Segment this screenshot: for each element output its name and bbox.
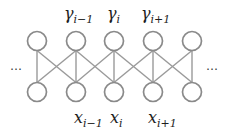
- label-x-i-minus-1: xi−1: [74, 110, 103, 126]
- label-subscript: i−1: [74, 13, 94, 26]
- label-symbol: x: [148, 108, 157, 127]
- bottom-nodes: [28, 83, 202, 102]
- label-symbol: x: [74, 108, 83, 127]
- label-gamma-i-plus-1: γi+1: [141, 6, 170, 22]
- label-symbol: x: [110, 108, 119, 127]
- top-node-2: [67, 32, 86, 51]
- bottom-node-2: [67, 83, 86, 102]
- label-symbol: γ: [141, 4, 151, 23]
- top-node-1: [28, 32, 47, 51]
- top-node-3: [105, 32, 124, 51]
- label-subscript: i−1: [83, 117, 103, 130]
- label-gamma-i: γi: [107, 6, 120, 22]
- ellipsis-right: …: [206, 60, 217, 72]
- vertical-edges: [37, 51, 192, 83]
- bottom-node-3: [105, 83, 124, 102]
- label-subscript: i+1: [157, 117, 177, 130]
- top-node-5: [183, 32, 202, 51]
- bottom-node-1: [28, 83, 47, 102]
- top-nodes: [28, 32, 202, 51]
- label-subscript: i+1: [151, 13, 171, 26]
- label-subscript: i: [119, 117, 123, 130]
- label-symbol: γ: [107, 4, 117, 23]
- label-subscript: i: [117, 13, 121, 26]
- top-node-4: [144, 32, 163, 51]
- label-x-i-plus-1: xi+1: [148, 110, 177, 126]
- bottom-node-4: [144, 83, 163, 102]
- ellipsis-left: …: [10, 60, 21, 72]
- label-gamma-i-minus-1: γi−1: [64, 6, 93, 22]
- label-x-i: xi: [110, 110, 123, 126]
- bottom-node-5: [183, 83, 202, 102]
- label-symbol: γ: [64, 4, 74, 23]
